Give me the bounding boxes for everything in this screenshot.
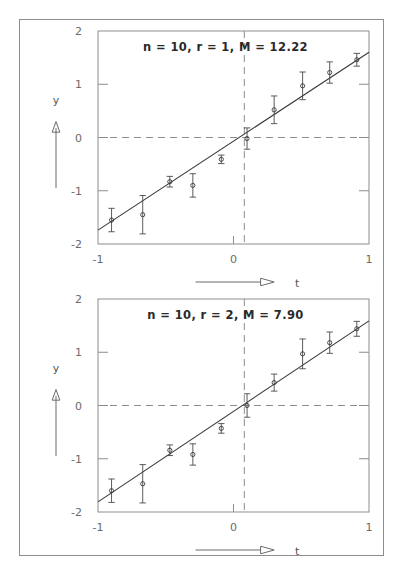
data-point bbox=[327, 332, 333, 353]
y-tick-label: 2 bbox=[75, 25, 82, 38]
chart-panel-top: -2-1012-101n = 10, r = 1, M = 12.22yt bbox=[20, 20, 385, 288]
regression-line bbox=[98, 52, 369, 230]
y-tick-label: 0 bbox=[75, 400, 82, 413]
data-point bbox=[354, 321, 360, 336]
x-tick-label: 0 bbox=[230, 253, 237, 266]
x-axis-label: t bbox=[295, 545, 300, 557]
chart-title: n = 10, r = 1, M = 12.22 bbox=[143, 40, 308, 54]
x-axis-arrow-head-icon bbox=[261, 278, 275, 286]
data-point bbox=[108, 479, 114, 502]
data-point bbox=[271, 374, 277, 391]
y-tick-label: 2 bbox=[75, 293, 82, 306]
x-tick-label: 1 bbox=[366, 253, 373, 266]
x-tick-label: 0 bbox=[230, 521, 237, 534]
chart-title: n = 10, r = 2, M = 7.90 bbox=[147, 308, 304, 322]
y-axis-label: y bbox=[53, 362, 60, 375]
y-tick-label: -1 bbox=[71, 453, 82, 466]
x-tick-label: -1 bbox=[93, 521, 104, 534]
y-tick-label: -1 bbox=[71, 185, 82, 198]
data-point bbox=[271, 96, 277, 124]
data-point bbox=[108, 208, 114, 231]
x-tick-label: 1 bbox=[366, 521, 373, 534]
data-point bbox=[167, 445, 173, 456]
data-point bbox=[167, 176, 173, 187]
plot-area-bottom: -2-1012-101n = 10, r = 2, M = 7.90yt bbox=[20, 288, 385, 556]
x-axis-arrow-head-icon bbox=[261, 546, 275, 554]
y-tick-label: -2 bbox=[71, 506, 82, 519]
data-point bbox=[299, 72, 305, 100]
data-point bbox=[218, 424, 224, 434]
regression-line bbox=[98, 321, 369, 502]
plot-area-top: -2-1012-101n = 10, r = 1, M = 12.22yt bbox=[20, 20, 385, 288]
figure-outer-border: -2-1012-101n = 10, r = 1, M = 12.22yt -2… bbox=[19, 19, 384, 556]
chart-panel-bottom: -2-1012-101n = 10, r = 2, M = 7.90yt bbox=[20, 288, 385, 556]
x-axis-label: t bbox=[295, 277, 300, 289]
data-point bbox=[190, 444, 196, 465]
y-tick-label: 1 bbox=[75, 346, 82, 359]
y-tick-label: -2 bbox=[71, 238, 82, 251]
data-point bbox=[354, 53, 360, 66]
data-point bbox=[190, 174, 196, 197]
y-tick-label: 0 bbox=[75, 132, 82, 145]
y-axis-label: y bbox=[53, 94, 60, 107]
y-tick-label: 1 bbox=[75, 78, 82, 91]
x-tick-label: -1 bbox=[93, 253, 104, 266]
data-point bbox=[140, 196, 146, 234]
data-point bbox=[218, 155, 224, 164]
